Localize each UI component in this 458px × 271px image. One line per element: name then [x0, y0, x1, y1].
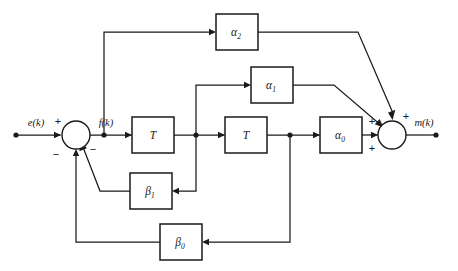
block-diagram-svg: α2 α1 T T α0 β1 [0, 0, 458, 271]
block-beta1: β1 [130, 173, 172, 209]
block-alpha2-subscript: 2 [237, 31, 241, 40]
wire-output-adder-to-terminal [406, 132, 439, 137]
wire-beta1-to-input-adder [79, 142, 130, 191]
sign-input-adder-minus-beta1: − [90, 143, 96, 155]
block-alpha1-subscript: 1 [272, 84, 276, 93]
block-diagram-canvas: α2 α1 T T α0 β1 [0, 0, 458, 271]
block-delay-1: T [132, 117, 174, 153]
block-beta0: β0 [160, 224, 202, 260]
wire-input-to-adder [13, 132, 61, 138]
input-terminal-dot [13, 132, 18, 137]
sign-input-adder-minus-beta0: − [53, 148, 59, 160]
block-alpha0-subscript: 0 [341, 134, 345, 143]
block-delay-2: T [225, 117, 267, 153]
wire-alpha0-to-output-adder [362, 132, 378, 138]
block-alpha1: α1 [251, 67, 293, 103]
wire-delay2-to-alpha0 [267, 132, 320, 138]
block-alpha2: α2 [216, 14, 258, 50]
adder-input-summing-junction [62, 121, 90, 149]
adder-output-summing-junction [378, 121, 406, 149]
wire-delay1-to-delay2 [174, 132, 225, 138]
block-beta1-subscript: 1 [151, 190, 155, 199]
wire-adder-to-delay1 [90, 132, 132, 138]
sign-output-adder-plus-lower: + [369, 142, 375, 154]
signal-label-intermediate: f(k) [99, 117, 114, 129]
sign-input-adder-plus: + [55, 115, 61, 127]
wire-delay1-to-beta1 [172, 135, 196, 194]
signal-label-input: e(k) [28, 117, 45, 129]
sign-output-adder-plus-upper: + [369, 115, 375, 127]
sign-output-adder-plus-top: + [403, 110, 409, 122]
block-alpha0: α0 [320, 117, 362, 153]
signal-label-output: m(k) [414, 117, 434, 129]
block-beta0-subscript: 0 [181, 241, 185, 250]
output-terminal-dot [433, 132, 438, 137]
